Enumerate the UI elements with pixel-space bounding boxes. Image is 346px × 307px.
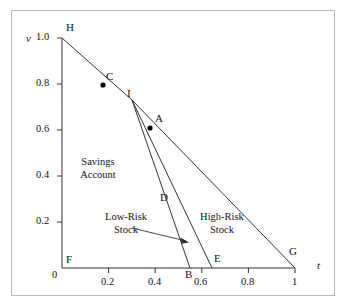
x-tick-label-0-6: 0.6 <box>194 277 207 288</box>
y-tick-label-0-8: 0.8 <box>36 78 49 89</box>
y-tick-label-0-6: 0.6 <box>36 124 49 135</box>
savings-account-line-2: Account <box>68 169 128 182</box>
x-tick-label-0-8: 0.8 <box>241 277 254 288</box>
x-axis-title: t <box>317 260 320 271</box>
annotation-savings-account: Savings Account <box>68 156 128 182</box>
point-label-E: E <box>214 253 221 264</box>
low-risk-stock-line-2: Stock <box>98 224 154 237</box>
y-tick-label-0-2: 0.2 <box>36 216 49 227</box>
figure-container: v t 1.0 0.8 0.6 0.4 0.2 0 0.2 0.4 0.6 0.… <box>0 0 346 307</box>
series-I-B <box>132 100 190 268</box>
x-tick-label-0-4: 0.4 <box>148 277 161 288</box>
point-label-A: A <box>155 113 163 124</box>
data-point-A <box>147 125 152 130</box>
point-label-F: F <box>66 254 72 265</box>
chart-plot-area <box>0 0 346 307</box>
savings-account-line-1: Savings <box>68 156 128 169</box>
x-tick-label-1: 1 <box>292 277 297 288</box>
annotation-high-risk-stock: High-Risk Stock <box>192 211 252 237</box>
annotation-low-risk-stock: Low-Risk Stock <box>98 211 154 237</box>
point-label-I: I <box>127 88 131 99</box>
point-label-H: H <box>66 22 74 33</box>
origin-label: 0 <box>52 270 57 281</box>
low-risk-stock-line-1: Low-Risk <box>98 211 154 224</box>
high-risk-stock-line-1: High-Risk <box>192 211 252 224</box>
y-axis-title: v <box>26 33 31 44</box>
point-label-D: D <box>160 192 168 203</box>
point-label-C: C <box>106 71 113 82</box>
series-I-E <box>132 100 212 268</box>
point-label-G: G <box>289 246 297 257</box>
low-risk-arrowhead <box>181 238 190 244</box>
data-point-C <box>100 82 105 87</box>
y-tick-label-0-4: 0.4 <box>36 170 49 181</box>
x-tick-label-0-2: 0.2 <box>101 277 114 288</box>
point-label-B: B <box>185 269 192 280</box>
high-risk-stock-line-2: Stock <box>192 224 252 237</box>
y-tick-label-1-0: 1.0 <box>36 32 49 43</box>
